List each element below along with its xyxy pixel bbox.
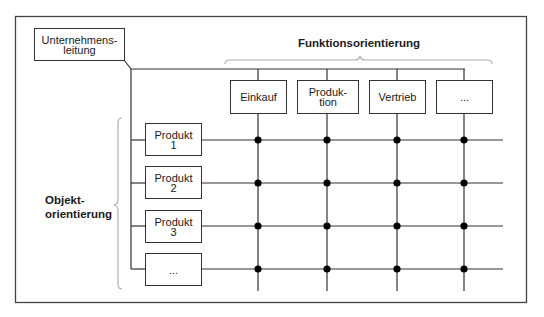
function-label: Produk- tion <box>309 87 348 107</box>
function-orientation-title: Funktionsorientierung <box>298 36 420 50</box>
function-label: Einkauf <box>240 92 277 102</box>
function-box-more: ... <box>436 80 493 114</box>
function-label: Vertrieb <box>379 92 417 102</box>
object-box-produkt-3: Produkt 3 <box>145 210 202 243</box>
object-orientation-title: Objekt- orientierung <box>45 193 112 221</box>
object-box-produkt-1: Produkt 1 <box>145 123 202 156</box>
object-label: Produkt 1 <box>155 130 193 150</box>
root-label: Unternehmens- leitung <box>42 35 118 55</box>
left-brace <box>114 118 122 289</box>
function-box-einkauf: Einkauf <box>230 80 287 114</box>
object-label: ... <box>169 265 178 275</box>
object-label: Produkt 3 <box>155 217 193 237</box>
root-box-unternehmensleitung: Unternehmens- leitung <box>34 28 125 61</box>
function-label: ... <box>460 92 469 102</box>
object-box-produkt-2: Produkt 2 <box>145 166 202 199</box>
intersection-nodes <box>254 136 467 272</box>
object-box-more: ... <box>145 253 202 286</box>
top-brace <box>225 56 492 64</box>
function-box-produktion: Produk- tion <box>297 80 359 114</box>
function-box-vertrieb: Vertrieb <box>369 80 426 114</box>
object-label: Produkt 2 <box>155 173 193 193</box>
